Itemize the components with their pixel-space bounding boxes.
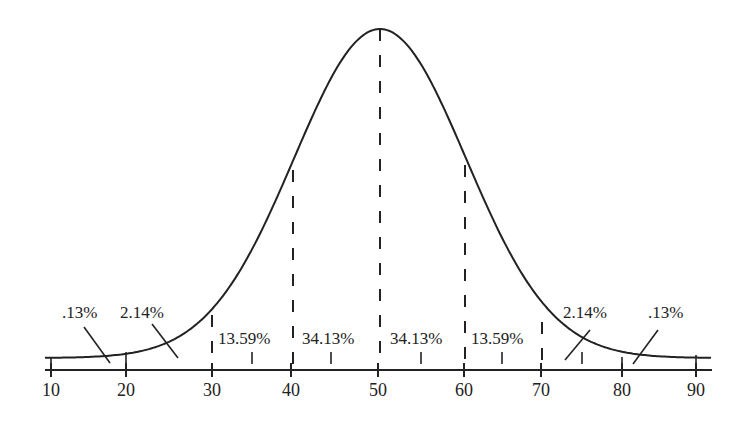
label-left-tail: .13% — [62, 303, 97, 322]
tick-label-20: 20 — [117, 380, 135, 400]
label-left-center: 34.13% — [302, 329, 354, 348]
label-right-1sd-band: 13.59% — [471, 329, 523, 348]
tick-label-30: 30 — [203, 380, 221, 400]
tick-label-60: 60 — [455, 380, 473, 400]
tick-label-50: 50 — [369, 380, 387, 400]
tick-label-90: 90 — [687, 380, 705, 400]
x-axis-tick-labels: 10 20 30 40 50 60 70 80 90 — [42, 380, 705, 400]
tick-label-40: 40 — [282, 380, 300, 400]
label-left-1sd-band: 13.59% — [218, 329, 270, 348]
label-left-2sd: 2.14% — [120, 303, 164, 322]
label-right-2sd: 2.14% — [563, 303, 607, 322]
sd-dashed-lines — [212, 29, 542, 364]
tick-label-10: 10 — [42, 380, 60, 400]
label-right-center: 34.13% — [390, 329, 442, 348]
tick-label-70: 70 — [532, 380, 550, 400]
tick-label-80: 80 — [613, 380, 631, 400]
curve-tick-marks — [51, 352, 696, 364]
label-right-tail: .13% — [648, 303, 683, 322]
normal-distribution-diagram: .13% 2.14% 13.59% 34.13% 34.13% 13.59% 2… — [0, 0, 752, 428]
